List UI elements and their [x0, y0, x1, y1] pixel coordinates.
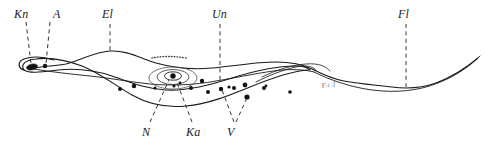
- label-fl: Fl: [398, 8, 409, 20]
- granule: [243, 83, 248, 88]
- granule: [189, 86, 193, 90]
- leader-line-v1: [222, 90, 234, 122]
- label-v: V: [227, 126, 235, 138]
- granule: [132, 84, 136, 88]
- label-el: El: [102, 8, 113, 20]
- label-n: N: [142, 126, 150, 138]
- leader-line-n: [150, 80, 169, 122]
- leader-lines-bottom: [150, 80, 247, 122]
- membrane-stipple-dotted: [152, 57, 186, 59]
- karyosome: [170, 73, 175, 78]
- granule: [227, 85, 230, 88]
- granule: [288, 90, 292, 94]
- label-kn: Kn: [14, 8, 28, 20]
- blepharoplast-granule: [43, 64, 47, 68]
- volutin-granules: [118, 79, 292, 100]
- label-a: A: [53, 8, 61, 20]
- label-ka: Ka: [186, 126, 200, 138]
- trypanosome-figure: Kn A El Un Fl N Ka V F.c.f: [0, 0, 485, 147]
- granule: [206, 90, 210, 94]
- label-un: Un: [212, 8, 227, 20]
- granule: [118, 87, 122, 91]
- granule: [200, 79, 204, 83]
- trypanosome-drawing: [0, 0, 485, 147]
- granule: [232, 86, 236, 90]
- leader-line-v2: [236, 98, 247, 122]
- granule: [179, 82, 182, 85]
- granule: [173, 85, 176, 88]
- granule: [265, 85, 268, 88]
- granule: [154, 87, 157, 90]
- leader-lines-top: [26, 22, 406, 90]
